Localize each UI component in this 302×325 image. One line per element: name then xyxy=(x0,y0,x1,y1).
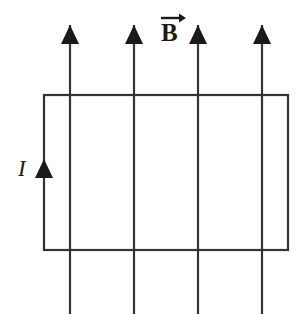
physics-diagram-figure: B I xyxy=(0,0,302,325)
magnetic-field-lines-group xyxy=(61,25,271,314)
magnetic-field-arrowhead-3 xyxy=(189,25,207,44)
diagram-canvas xyxy=(0,0,302,325)
vector-accent-head xyxy=(179,14,186,23)
current-direction-arrowhead xyxy=(35,159,53,178)
magnetic-field-arrowhead-1 xyxy=(61,25,79,44)
current-loop-rectangle xyxy=(44,95,288,250)
vector-arrow-accent-icon xyxy=(161,14,186,23)
magnetic-field-arrowhead-2 xyxy=(125,25,143,44)
magnetic-field-arrowhead-4 xyxy=(253,25,271,44)
